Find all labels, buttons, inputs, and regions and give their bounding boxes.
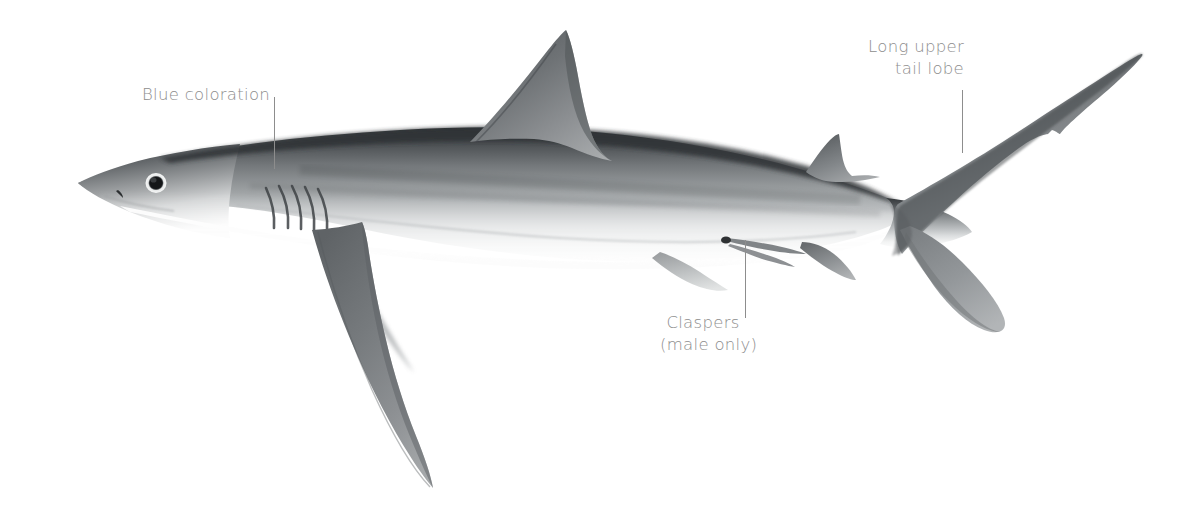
blue-shark-illustration (0, 0, 1204, 524)
leader-line-blue-coloration (274, 97, 275, 169)
label-long-upper-tail-lobe: Long upper tail lobe (846, 36, 964, 80)
label-claspers: Claspers (male only) (660, 312, 746, 356)
pectoral-fin-near (312, 222, 433, 488)
caudal-fin (890, 54, 1143, 333)
leader-line-claspers (745, 240, 746, 318)
lower-caudal-lobe (900, 226, 1005, 332)
shark-figure: Blue coloration Long upper tail lobe Cla… (0, 0, 1204, 524)
leader-line-long-upper-tail-lobe (962, 90, 963, 153)
eye (146, 173, 167, 193)
second-dorsal-fin (806, 134, 880, 182)
label-blue-coloration: Blue coloration (142, 84, 270, 106)
